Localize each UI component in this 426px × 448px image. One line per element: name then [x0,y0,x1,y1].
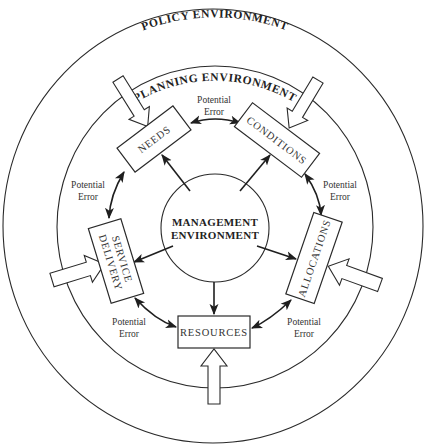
planning-environment-diagram: POLICY ENVIRONMENT PLANNING ENVIRONMENT … [0,0,426,448]
svg-text:Error: Error [204,107,225,117]
svg-text:Potential: Potential [71,180,105,190]
error-label-needs-conditions: Potential Error [197,95,231,117]
management-environment-label-line2: ENVIRONMENT [171,229,260,241]
arrow-management-to-conditions [240,155,270,191]
policy-environment-label: POLICY ENVIRONMENT [140,7,290,32]
arrow-management-to-needs [162,155,190,191]
external-input-arrow-resources [201,349,227,404]
svg-text:Potential: Potential [112,317,146,327]
svg-text:Error: Error [78,192,99,202]
svg-text:Error: Error [330,192,351,202]
svg-text:Potential: Potential [287,317,321,327]
error-label-service-delivery-needs: Potential Error [71,180,105,202]
svg-text:Potential: Potential [197,95,231,105]
management-environment-circle [161,174,269,282]
error-label-conditions-allocations: Potential Error [323,180,357,202]
svg-text:Error: Error [294,329,315,339]
node-needs: NEEDS [117,106,191,172]
external-input-arrow-allocations [324,253,385,298]
svg-text:Error: Error [119,329,140,339]
node-resources: RESOURCES [178,316,250,348]
error-arrow-needs-conditions [191,119,240,123]
node-resources-label: RESOURCES [180,327,248,338]
management-environment-label-line1: MANAGEMENT [172,216,258,228]
error-arrow-allocations-resources [252,300,291,328]
svg-text:Potential: Potential [323,180,357,190]
error-label-allocations-resources: Potential Error [287,317,321,339]
error-label-resources-service-delivery: Potential Error [112,317,146,339]
error-arrow-conditions-allocations [305,174,321,215]
error-arrow-service-delivery-needs [109,172,124,218]
node-conditions: CONDITIONS [234,103,319,178]
